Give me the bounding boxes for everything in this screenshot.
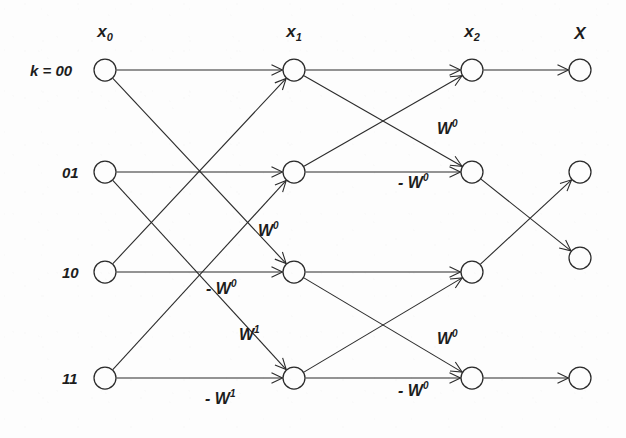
edge-e-s3-00 bbox=[484, 65, 569, 75]
node-x2-0 bbox=[461, 59, 483, 81]
edge-e-s1-00 bbox=[117, 65, 283, 75]
edge-e-s2-33 bbox=[306, 373, 461, 383]
node-x2-3 bbox=[461, 367, 483, 389]
node-X-3 bbox=[569, 367, 591, 389]
edge-line-e-s3-12 bbox=[481, 179, 571, 251]
weight-label-w-bot-2: - W0 bbox=[398, 381, 428, 398]
row-label-row-11: 11 bbox=[62, 371, 78, 386]
nodes-layer bbox=[94, 59, 591, 389]
row-label-row-00: k = 00 bbox=[30, 63, 72, 78]
edge-line-e-s3-21 bbox=[480, 180, 571, 264]
weight-label-w-bot-1: W0 bbox=[437, 329, 458, 346]
signal-flow-graph bbox=[0, 0, 626, 438]
weight-label-w-mid-3: W1 bbox=[239, 325, 260, 342]
edge-e-s3-12 bbox=[481, 179, 571, 251]
edge-e-s2-00 bbox=[306, 65, 461, 75]
row-label-row-10: 10 bbox=[62, 265, 79, 280]
node-X-1 bbox=[569, 161, 591, 183]
node-x0-2 bbox=[94, 261, 116, 283]
weight-label-w-mid-2: - W0 bbox=[206, 279, 236, 296]
node-x1-0 bbox=[283, 59, 305, 81]
edge-e-s2-22 bbox=[306, 267, 461, 277]
edge-e-s3-33 bbox=[484, 373, 569, 383]
node-x1-3 bbox=[283, 367, 305, 389]
figure-canvas: x0x1x2Xk = 00011011W0- W0W1- W1W0- W0W0-… bbox=[0, 0, 626, 438]
node-x0-0 bbox=[94, 59, 116, 81]
column-header-x1: x1 bbox=[286, 23, 302, 43]
node-x1-2 bbox=[283, 261, 305, 283]
edge-e-s3-21 bbox=[480, 180, 571, 264]
weight-label-w-top-2: - W0 bbox=[398, 173, 428, 190]
weight-label-w-mid-1: W0 bbox=[258, 221, 279, 238]
column-header-x0: x0 bbox=[97, 23, 113, 43]
edges-layer bbox=[113, 65, 572, 383]
weight-label-w-mid-4: - W1 bbox=[205, 389, 235, 406]
row-label-row-01: 01 bbox=[62, 165, 79, 180]
node-x2-2 bbox=[461, 261, 483, 283]
node-x2-1 bbox=[461, 161, 483, 183]
edge-e-s2-11 bbox=[306, 167, 461, 177]
column-header-x2: x2 bbox=[464, 23, 480, 43]
node-X-2 bbox=[569, 247, 591, 269]
edge-e-s1-11 bbox=[117, 167, 283, 177]
node-x0-1 bbox=[94, 161, 116, 183]
edge-e-s1-33 bbox=[117, 373, 283, 383]
node-X-0 bbox=[569, 59, 591, 81]
weight-label-w-top-1: W0 bbox=[437, 119, 458, 136]
column-header-X: X bbox=[574, 25, 585, 42]
node-x1-1 bbox=[283, 161, 305, 183]
node-x0-3 bbox=[94, 367, 116, 389]
